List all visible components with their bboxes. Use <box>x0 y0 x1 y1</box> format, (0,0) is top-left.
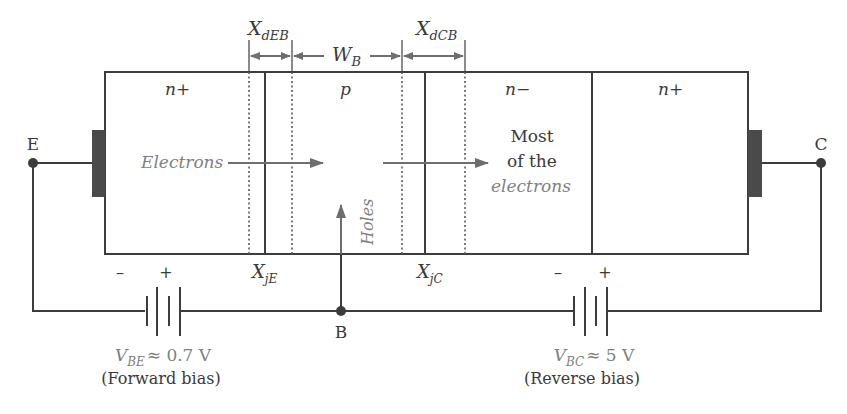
vbe-plus-sign: + <box>159 263 172 282</box>
vbc-minus-sign: – <box>554 263 562 282</box>
vbc-plus-sign: + <box>598 263 611 282</box>
emitter-terminal-label: E <box>27 134 39 154</box>
battery-vbc: – + VBC≈ 5 V (Reverse bias) <box>524 263 640 388</box>
collected-electrons-line3: electrons <box>491 176 571 196</box>
vbc-voltage-label: VBC≈ 5 V <box>554 345 635 369</box>
region-label-emitter: n+ <box>165 79 190 99</box>
collected-electrons-line1: Most <box>510 126 553 146</box>
base-node <box>336 306 346 316</box>
bjt-diagram: XdEB WB XdCB n+ p n− n+ E C B – + VBE <box>0 0 847 414</box>
xdcb-label: XdCB <box>414 17 457 43</box>
emitter-loop-wire <box>33 163 145 311</box>
holes-label: Holes <box>358 199 377 246</box>
vbe-minus-sign: – <box>116 263 124 282</box>
vbc-bias-label: (Reverse bias) <box>524 369 640 388</box>
collector-contact <box>748 130 762 197</box>
collector-loop-wire <box>607 163 821 311</box>
region-label-base: p <box>340 79 351 99</box>
xdeb-label: XdEB <box>246 17 289 43</box>
region-label-collector-drift: n− <box>505 79 530 99</box>
dimension-markers: XdEB WB XdCB <box>246 17 465 72</box>
collector-terminal-label: C <box>814 134 827 154</box>
base-terminal-label: B <box>335 322 348 342</box>
xje-label: XjE <box>250 261 278 286</box>
wb-label: WB <box>332 43 361 69</box>
emitter-contact <box>92 130 105 197</box>
electrons-label: Electrons <box>140 152 224 172</box>
collected-electrons-line2: of the <box>507 151 557 171</box>
region-label-collector-contact: n+ <box>658 79 683 99</box>
battery-vbe: – + VBE≈ 0.7 V (Forward bias) <box>101 263 220 388</box>
vbe-bias-label: (Forward bias) <box>101 369 220 388</box>
xjc-label: XjC <box>415 261 443 286</box>
vbe-voltage-label: VBE≈ 0.7 V <box>115 345 212 369</box>
